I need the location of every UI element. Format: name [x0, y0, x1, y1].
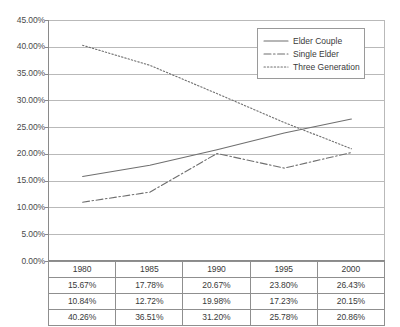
legend-label: Elder Couple: [289, 36, 342, 46]
y-tick-label: 40.00%: [1, 42, 45, 51]
table-cell: 17.23%: [250, 294, 317, 310]
y-axis: 45.00%40.00%35.00%30.00%25.00%20.00%15.0…: [0, 0, 45, 262]
legend-item: Single Elder: [263, 47, 358, 60]
legend-label: Single Elder: [289, 49, 339, 59]
legend-item: Elder Couple: [263, 34, 358, 47]
solid-line-icon: [263, 36, 289, 46]
table-cell: 25.78%: [250, 310, 317, 326]
y-tick-label: 25.00%: [1, 123, 45, 132]
table-cell: 19.98%: [183, 294, 250, 310]
table-cell: 1990: [183, 262, 250, 278]
table-row: 40.26%36.51%31.20%25.78%20.86%: [49, 310, 385, 326]
y-tick-label: 20.00%: [1, 149, 45, 158]
data-table: 1980198519901995200015.67%17.78%20.67%23…: [48, 261, 385, 326]
table-cell: 26.43%: [317, 278, 384, 294]
table-cell: 31.20%: [183, 310, 250, 326]
series-line-1: [83, 153, 352, 203]
table-row: 10.84%12.72%19.98%17.23%20.15%: [49, 294, 385, 310]
y-tick-label: 30.00%: [1, 96, 45, 105]
table-cell: 1980: [49, 262, 116, 278]
chart-page: 45.00%40.00%35.00%30.00%25.00%20.00%15.0…: [0, 0, 400, 327]
table-cell: 12.72%: [116, 294, 183, 310]
table-cell: 1985: [116, 262, 183, 278]
table-header-row: 19801985199019952000: [49, 262, 385, 278]
table-cell: 2000: [317, 262, 384, 278]
dash-dot-line-icon: [263, 49, 289, 59]
series-line-0: [83, 119, 352, 176]
y-tick-label: 15.00%: [1, 176, 45, 185]
line-chart: 45.00%40.00%35.00%30.00%25.00%20.00%15.0…: [0, 0, 400, 262]
table-cell: 15.67%: [49, 278, 116, 294]
y-tick-label: 10.00%: [1, 203, 45, 212]
table-cell: 40.26%: [49, 310, 116, 326]
table-cell: 17.78%: [116, 278, 183, 294]
y-tick-label: 35.00%: [1, 69, 45, 78]
table-cell: 10.84%: [49, 294, 116, 310]
table-row: 15.67%17.78%20.67%23.80%26.43%: [49, 278, 385, 294]
dotted-line-icon: [263, 62, 289, 72]
table-cell: 36.51%: [116, 310, 183, 326]
y-tick-label: 5.00%: [1, 230, 45, 239]
table-cell: 20.15%: [317, 294, 384, 310]
y-tick-label: 45.00%: [1, 16, 45, 25]
y-tick-label: 0.00%: [1, 257, 45, 266]
chart-legend: Elder CoupleSingle ElderThree Generation: [257, 28, 365, 79]
table-cell: 1995: [250, 262, 317, 278]
legend-label: Three Generation: [289, 62, 360, 72]
table-cell: 20.86%: [317, 310, 384, 326]
table-cell: 20.67%: [183, 278, 250, 294]
table-cell: 23.80%: [250, 278, 317, 294]
legend-item: Three Generation: [263, 60, 358, 73]
